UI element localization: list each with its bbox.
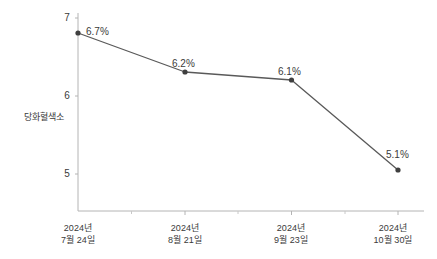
x-tick-label-1: 2024년 7월 24일	[33, 222, 123, 246]
y-tick-label-5: 5	[50, 168, 70, 179]
y-tick-label-6: 6	[50, 90, 70, 101]
y-axis-title: 당화혈색소	[18, 112, 70, 123]
x-tick-label-1-date: 7월 24일	[33, 234, 123, 246]
y-tick-label-7: 7	[50, 12, 70, 23]
x-tick-label-3-year: 2024년	[246, 222, 336, 234]
data-point-marker[interactable]	[289, 77, 294, 82]
x-tick-label-4: 2024년 10월 30일	[348, 222, 437, 246]
x-tick-label-2-year: 2024년	[140, 222, 230, 234]
x-tick-label-2-date: 8월 21일	[140, 234, 230, 246]
data-label-2: 6.2%	[172, 58, 195, 69]
data-label-3: 6.1%	[278, 66, 301, 77]
data-label-1: 6.7%	[86, 26, 109, 37]
data-label-4: 5.1%	[386, 149, 409, 160]
x-tick-label-3: 2024년 9월 23일	[246, 222, 336, 246]
data-point-marker[interactable]	[182, 69, 187, 74]
x-tick-label-4-year: 2024년	[348, 222, 437, 234]
x-tick-label-3-date: 9월 23일	[246, 234, 336, 246]
data-point-marker[interactable]	[75, 30, 80, 35]
data-point-marker[interactable]	[395, 167, 400, 172]
x-tick-label-2: 2024년 8월 21일	[140, 222, 230, 246]
chart-plot-area	[0, 0, 437, 259]
series-line-hba1c	[78, 33, 398, 170]
x-tick-label-1-year: 2024년	[33, 222, 123, 234]
x-tick-label-4-date: 10월 30일	[348, 234, 437, 246]
hba1c-line-chart: 당화혈색소 7 6 5 2024년 7월 24일 2024년 8월 21일 20…	[0, 0, 437, 259]
